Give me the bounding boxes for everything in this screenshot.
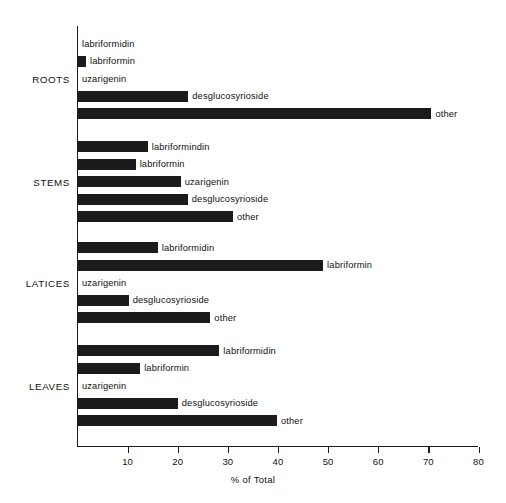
x-axis-tick-label: 60 (373, 456, 384, 467)
category-label-latices: LATICES (2, 278, 70, 289)
bar-label: labriformin (144, 363, 189, 373)
category-label-stems: STEMS (2, 177, 70, 188)
bar-desglucosyrioside (78, 194, 188, 205)
bar-label: uzarigenin (82, 74, 126, 84)
x-axis-tick (428, 447, 429, 453)
bar-label: uzarigenin (185, 177, 229, 187)
x-axis-tick-label: 50 (323, 456, 334, 467)
bar-label: other (237, 212, 259, 222)
x-axis-title: % of Total (0, 474, 506, 485)
bar-desglucosyrioside (78, 91, 188, 102)
bar-row: other (78, 108, 498, 119)
bar-label: desglucosyrioside (182, 398, 258, 408)
bar-desglucosyrioside (78, 295, 129, 306)
category-label-roots: ROOTS (2, 74, 70, 85)
x-axis-tick (378, 447, 379, 453)
bar-row: uzarigenin (78, 277, 498, 288)
bar-row: labriformin (78, 159, 498, 170)
bar-label: labriformin (140, 159, 185, 169)
bar-label: desglucosyrioside (133, 295, 209, 305)
bar-row: labriformin (78, 56, 498, 67)
bar-label: labriformidin (223, 346, 276, 356)
bar-label: labriformidin (82, 39, 135, 49)
bar-row: desglucosyrioside (78, 295, 498, 306)
x-axis-tick (479, 447, 480, 453)
bar-row: labriformidin (78, 242, 498, 253)
bar-row: other (78, 312, 498, 323)
bar-row: other (78, 211, 498, 222)
x-axis-tick (228, 447, 229, 453)
bar-chart: 1020304050607080 labriformidinlabriformi… (0, 0, 506, 503)
bar-labriformindin (78, 141, 148, 152)
bar-labriformin (78, 56, 86, 67)
bar-label: labriformin (90, 56, 135, 66)
bar-row: desglucosyrioside (78, 398, 498, 409)
bar-row: uzarigenin (78, 73, 498, 84)
bar-labriformidin (78, 242, 158, 253)
x-axis-tick (278, 447, 279, 453)
bar-row: desglucosyrioside (78, 194, 498, 205)
bar-label: desglucosyrioside (192, 194, 268, 204)
bar-label: desglucosyrioside (192, 91, 268, 101)
x-axis-tick (328, 447, 329, 453)
bar-label: labriformindin (152, 142, 210, 152)
bar-other (78, 211, 233, 222)
bar-other (78, 312, 210, 323)
x-axis-tick (128, 447, 129, 453)
bar-row: uzarigenin (78, 380, 498, 391)
bar-label: other (281, 416, 303, 426)
bar-label: uzarigenin (82, 278, 126, 288)
bar-row: labriformin (78, 260, 498, 271)
bar-row: labriformindin (78, 141, 498, 152)
bar-labriformin (78, 363, 140, 374)
bar-row: other (78, 415, 498, 426)
bar-row: desglucosyrioside (78, 91, 498, 102)
bar-labriformidin (78, 345, 219, 356)
bar-label: labriformidin (162, 243, 215, 253)
bar-label: uzarigenin (82, 381, 126, 391)
bar-other (78, 108, 431, 119)
bar-labriformin (78, 159, 136, 170)
bar-other (78, 415, 277, 426)
bar-labriformin (78, 260, 323, 271)
x-axis-tick-label: 30 (222, 456, 233, 467)
x-axis-tick-label: 20 (172, 456, 183, 467)
bar-label: other (214, 313, 236, 323)
x-axis-tick-label: 70 (423, 456, 434, 467)
bar-row: labriformidin (78, 345, 498, 356)
bar-row: labriformin (78, 363, 498, 374)
x-axis-tick-label: 40 (273, 456, 284, 467)
x-axis-tick-label: 10 (122, 456, 133, 467)
x-axis-tick (178, 447, 179, 453)
bar-uzarigenin (78, 176, 181, 187)
bar-label: other (435, 109, 457, 119)
category-label-leaves: LEAVES (2, 381, 70, 392)
bar-desglucosyrioside (78, 398, 178, 409)
bar-row: uzarigenin (78, 176, 498, 187)
bar-label: labriformin (327, 260, 372, 270)
x-axis-tick-label: 80 (473, 456, 484, 467)
bar-row: labriformidin (78, 38, 498, 49)
